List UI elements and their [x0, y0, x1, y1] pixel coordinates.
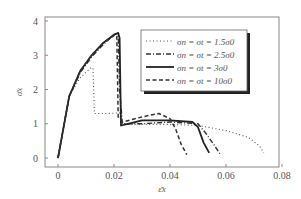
legend-label: σn = σt = 1.5σ0 — [177, 37, 235, 47]
x-axis-label: ε̄x — [158, 184, 166, 194]
y-tick-label: 1 — [33, 118, 38, 129]
plot-svg: 00.020.040.060.0801234ε̄xσ̄x σn = σt = 1… — [0, 0, 301, 199]
legend: σn = σt = 1.5σ0σn = σt = 2.5σ0σn = σt = … — [141, 30, 250, 94]
x-tick-label: 0.06 — [217, 170, 235, 181]
x-tick-label: 0.04 — [161, 170, 179, 181]
legend-label: σn = σt = 2.5σ0 — [177, 50, 235, 60]
y-axis-label: σ̄x — [14, 88, 24, 96]
x-tick-label: 0.08 — [273, 170, 291, 181]
y-tick-label: 2 — [33, 84, 38, 95]
y-tick-label: 0 — [33, 153, 38, 164]
stress-strain-chart: 00.020.040.060.0801234ε̄xσ̄x σn = σt = 1… — [0, 0, 301, 199]
legend-label: σn = σt = 10σ0 — [177, 76, 232, 86]
y-tick-label: 4 — [33, 16, 38, 27]
x-tick-label: 0.02 — [105, 170, 123, 181]
x-tick-label: 0 — [56, 170, 61, 181]
legend-label: σn = σt = 3σ0 — [177, 63, 228, 73]
y-tick-label: 3 — [33, 50, 38, 61]
